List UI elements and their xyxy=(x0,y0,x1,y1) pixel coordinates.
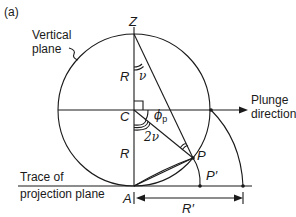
point-c-label: C xyxy=(120,109,130,124)
plunge-label-2: direction xyxy=(251,107,296,121)
point-pprime-dot xyxy=(198,184,202,188)
line-a-to-p xyxy=(134,158,193,186)
point-p-dot xyxy=(191,156,195,160)
vertical-plane-pointer xyxy=(69,48,78,60)
arrow-right-icon xyxy=(234,195,243,202)
point-pprime-label: P′ xyxy=(206,168,218,183)
angle-nu-arc-1 xyxy=(134,64,142,67)
vertical-plane-label-1: Vertical xyxy=(32,28,71,42)
angle-2nu-arc-1 xyxy=(134,120,146,125)
trace-label-2: projection plane xyxy=(20,187,105,201)
point-p-label: P xyxy=(197,148,206,163)
plunge-arrow-icon xyxy=(239,107,248,114)
vertical-plane-label-2: plane xyxy=(32,42,62,56)
diagram-figure: (a) Vertical plane Plunge direction Trac… xyxy=(0,0,296,217)
nu-label: ν xyxy=(139,69,146,83)
right-angle-marker xyxy=(134,101,143,110)
point-z-label: Z xyxy=(128,14,138,29)
trace-label-1: Trace of xyxy=(20,170,64,184)
two-nu-label: 2ν xyxy=(143,130,159,144)
panel-label: (a) xyxy=(4,5,19,19)
plunge-label-1: Plunge xyxy=(251,93,289,107)
angle-phi-arc xyxy=(145,110,148,120)
arrow-left-icon xyxy=(136,195,145,202)
r-prime-end-dot xyxy=(241,184,245,188)
r-upper-label: R xyxy=(120,69,129,84)
point-a-label: A xyxy=(122,191,132,206)
r-prime-label: R′ xyxy=(182,201,194,216)
diagram-canvas: (a) Vertical plane Plunge direction Trac… xyxy=(0,0,296,217)
r-lower-label: R xyxy=(120,146,129,161)
